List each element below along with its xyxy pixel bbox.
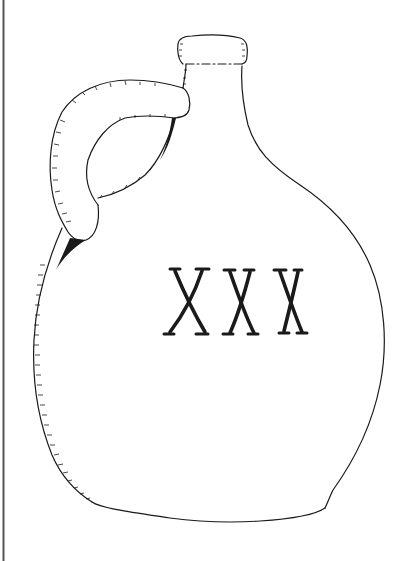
shading-hatches — [34, 44, 245, 499]
xxx-label — [164, 269, 307, 334]
handle-inner — [86, 116, 175, 205]
jug-body-right — [242, 66, 385, 508]
handle-shadow-lower — [56, 238, 86, 270]
jug-bottom — [92, 502, 325, 522]
jug-body-left — [34, 228, 92, 502]
jug-drawing — [0, 0, 409, 561]
jug-cap — [178, 35, 248, 64]
handle-neck-joint — [175, 88, 190, 118]
handle-inner-body-line — [98, 118, 175, 198]
illustration-frame: XXX — [0, 0, 409, 561]
handle-shadow-upper — [160, 118, 176, 160]
handle-outer — [50, 80, 183, 241]
